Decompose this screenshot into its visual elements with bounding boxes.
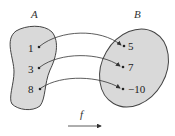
set-b-element-1: 5 [128, 40, 134, 52]
set-b-label: B [134, 8, 141, 20]
function-mapping-diagram: A 1 3 8 B 5 7 −10 f [0, 0, 175, 136]
set-a-element-2: 3 [28, 63, 34, 75]
set-b-element-3: −10 [128, 83, 146, 95]
set-b-element-2: 7 [128, 61, 134, 73]
function-label: f [80, 108, 85, 120]
set-a-label: A [30, 8, 38, 20]
set-a-element-3: 8 [28, 83, 34, 95]
set-a-element-1: 1 [28, 42, 34, 54]
